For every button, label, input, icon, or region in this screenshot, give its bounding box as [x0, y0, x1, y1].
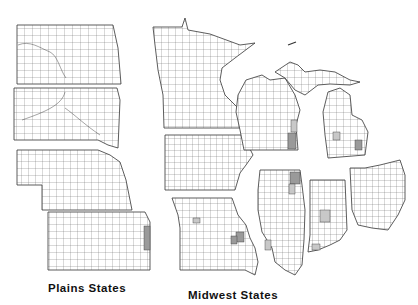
highlighted-county: [288, 133, 296, 149]
state-north-dakota: [17, 25, 121, 84]
highlighted-county: [265, 240, 271, 250]
state-michigan-lower: [323, 88, 368, 158]
highlighted-county: [290, 172, 300, 184]
highlighted-county: [320, 210, 330, 222]
group-label-midwest: Midwest States: [188, 289, 278, 301]
group-label-plains: Plains States: [48, 282, 126, 294]
highlighted-county: [312, 244, 320, 250]
state-illinois: [258, 170, 305, 275]
county-map: [0, 0, 418, 305]
highlighted-county: [291, 120, 297, 132]
state-iowa: [165, 135, 253, 190]
highlighted-county: [144, 226, 150, 250]
state-nebraska: [17, 150, 132, 210]
state-missouri: [172, 198, 258, 275]
state-wisconsin: [236, 75, 300, 150]
state-kansas: [48, 212, 150, 270]
highlighted-county: [193, 218, 200, 223]
highlighted-county: [355, 140, 362, 150]
highlighted-county: [231, 236, 237, 244]
state-ohio: [350, 160, 405, 230]
highlighted-county: [289, 184, 295, 194]
highlighted-county: [333, 132, 340, 140]
state-south-dakota: [14, 88, 120, 148]
state-indiana: [308, 180, 347, 252]
